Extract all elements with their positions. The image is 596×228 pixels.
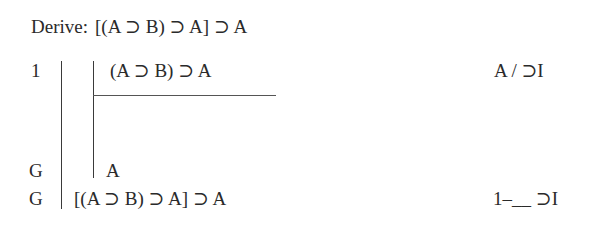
line-formula: (A ⊃ B) ⊃ A bbox=[110, 60, 212, 82]
derive-goal-formula: [(A ⊃ B) ⊃ A] ⊃ A bbox=[95, 16, 247, 38]
line-justification: A / ⊃I bbox=[494, 60, 544, 82]
derive-label: Derive: bbox=[31, 16, 88, 38]
line-number: G bbox=[29, 188, 43, 210]
line-number: 1 bbox=[31, 60, 41, 82]
line-justification: 1–__ ⊃I bbox=[493, 188, 558, 210]
line-formula: [(A ⊃ B) ⊃ A] ⊃ A bbox=[74, 188, 226, 210]
inner-scope-line bbox=[93, 61, 94, 178]
line-number: G bbox=[29, 160, 43, 182]
line-formula: A bbox=[106, 160, 120, 182]
outer-scope-line bbox=[61, 61, 62, 209]
assumption-bar bbox=[93, 95, 276, 96]
